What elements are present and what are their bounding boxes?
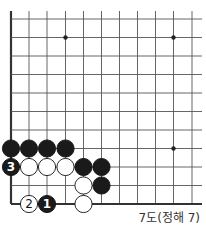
move-number-label: 2 — [25, 197, 33, 211]
white-stone — [20, 158, 37, 175]
white-stone — [75, 177, 92, 194]
black-stone: 1 — [38, 195, 55, 212]
star-point-icon — [63, 35, 67, 39]
move-number-label: 1 — [43, 197, 51, 211]
white-stone: 2 — [20, 195, 37, 212]
black-stone — [38, 140, 55, 157]
black-stone — [2, 140, 19, 157]
white-stone — [57, 158, 74, 175]
move-number-label: 3 — [7, 160, 15, 174]
white-stone — [75, 195, 92, 212]
go-board-diagram: 321 — [0, 0, 206, 227]
black-stone — [20, 140, 37, 157]
star-point-icon — [171, 146, 175, 150]
black-stone — [93, 158, 110, 175]
white-stone — [38, 158, 55, 175]
black-stone — [75, 158, 92, 175]
black-stone: 3 — [2, 158, 19, 175]
stones: 321 — [2, 140, 110, 213]
grid-lines — [11, 11, 202, 204]
black-stone — [57, 140, 74, 157]
black-stone — [93, 177, 110, 194]
star-point-icon — [171, 35, 175, 39]
diagram-caption: 7도(정해 7) — [139, 208, 200, 225]
